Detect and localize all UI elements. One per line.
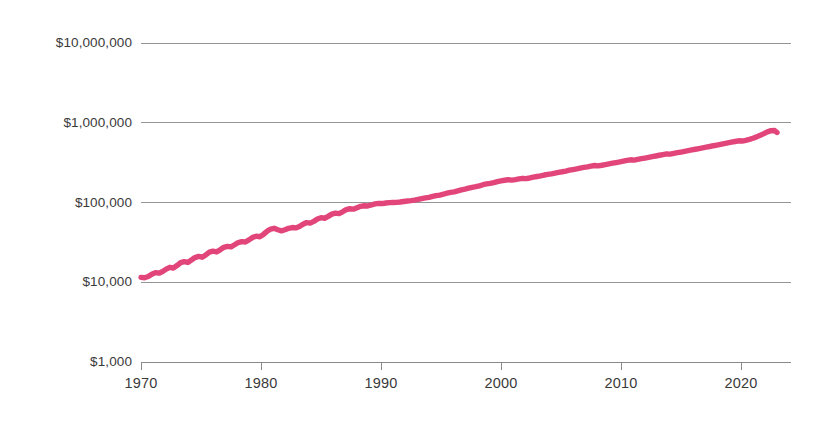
data-line-series	[141, 130, 777, 277]
chart-container: $1,000$10,000$100,000$1,000,000$10,000,0…	[0, 0, 820, 433]
y-tick-label: $10,000	[83, 275, 133, 289]
x-tick-label: 1970	[101, 376, 181, 391]
x-tick-label: 1980	[221, 376, 301, 391]
x-tick-label: 1990	[341, 376, 421, 391]
y-tick-label: $1,000,000	[63, 116, 132, 130]
gridlines	[141, 43, 792, 362]
y-tick-label: $10,000,000	[56, 36, 132, 50]
x-tick-label: 2000	[461, 376, 541, 391]
y-tick-label: $100,000	[75, 196, 132, 210]
x-axis-ticks	[141, 362, 741, 370]
y-tick-label: $1,000	[90, 355, 132, 369]
x-tick-label: 2010	[581, 376, 661, 391]
x-tick-label: 2020	[701, 376, 781, 391]
